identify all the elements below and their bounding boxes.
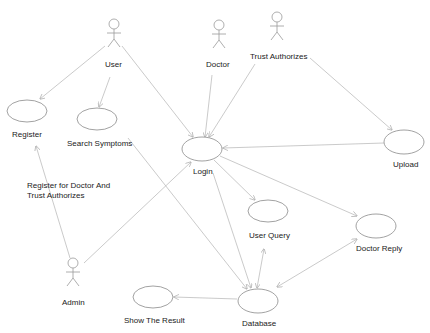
actor-doctor-icon[interactable] (212, 20, 226, 48)
actor-user-icon[interactable] (107, 19, 121, 47)
use-case-login[interactable] (182, 137, 222, 161)
use-case-label-upload: Upload (393, 160, 418, 170)
use-case-label-doctor-reply: Doctor Reply (356, 244, 402, 254)
use-case-label-register: Register (12, 130, 42, 140)
edge-admin-register (36, 146, 70, 258)
use-case-label-user-query: User Query (249, 231, 290, 241)
use-case-label-database: Database (242, 319, 276, 329)
use-case-upload[interactable] (384, 130, 424, 154)
use-case-label-login: Login (193, 167, 213, 177)
use-case-register[interactable] (7, 100, 47, 122)
actor-label-trust-authorizes: Trust Authorizes (250, 52, 308, 62)
use-case-database[interactable] (238, 289, 278, 313)
edge-doctor-login (205, 75, 212, 137)
edge-annotation-register-for-doctor-and-trust: Register for Doctor And Trust Authorizes (27, 181, 117, 201)
use-case-doctor-reply[interactable] (356, 214, 396, 238)
edge-trust-login (209, 64, 255, 137)
edge-userquery-database (257, 249, 264, 288)
edge-user-login (122, 46, 193, 137)
use-case-show-the-result[interactable] (133, 286, 173, 308)
edge-doctorreply-database (277, 239, 357, 287)
use-case-label-show-the-result: Show The Result (124, 316, 185, 326)
edge-search-database (128, 138, 247, 289)
use-case-user-query[interactable] (248, 200, 288, 222)
use-case-search-symptoms[interactable] (77, 108, 117, 130)
use-case-label-search-symptoms: Search Symptoms (67, 139, 132, 149)
edge-user-register (40, 46, 105, 99)
actor-label-user: User (105, 60, 122, 70)
actor-label-admin: Admin (62, 298, 85, 308)
actor-label-doctor: Doctor (206, 60, 230, 70)
edge-database-showresult (174, 297, 237, 299)
use-case-diagram (0, 0, 430, 333)
edge-admin-login (84, 162, 191, 263)
edge-upload-login (223, 143, 384, 148)
edge-user-search (99, 77, 110, 107)
actor-admin-icon[interactable] (66, 258, 80, 286)
actor-trust-authorizes-icon[interactable] (270, 12, 284, 40)
edge-trust-upload (310, 58, 392, 130)
